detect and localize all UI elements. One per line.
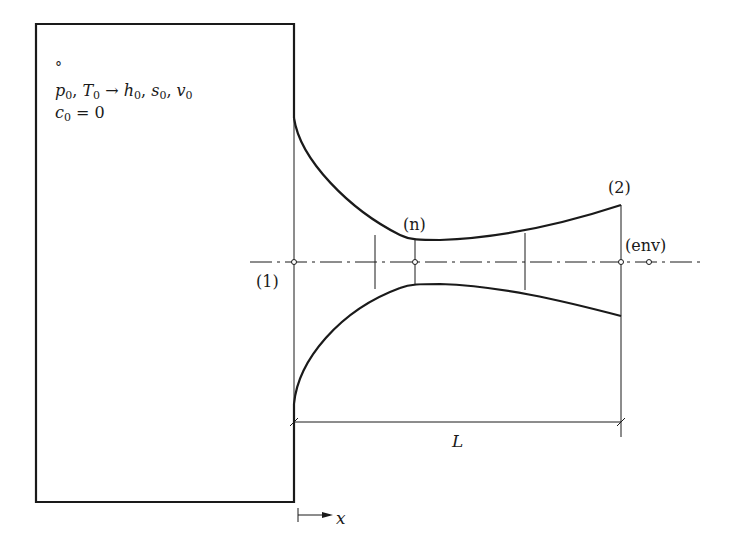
nozzle-lower-wall — [294, 284, 621, 404]
length-label: L — [451, 431, 463, 451]
nozzle-upper-wall — [294, 118, 621, 240]
tank-properties: p0, T0 → h0, s0, v0 — [55, 81, 193, 102]
env-point — [647, 260, 652, 265]
state-marker: ° — [55, 59, 62, 75]
throat-label: (n) — [403, 215, 426, 234]
throat-point — [413, 260, 418, 265]
nozzle-diagram: ° p0, T0 → h0, s0, v0 c0 = 0 (1) (n) (2)… — [0, 0, 729, 549]
env-label: (env) — [625, 236, 666, 255]
station-1-point — [292, 260, 297, 265]
station-2-label: (2) — [608, 178, 631, 197]
station-2-point — [619, 260, 624, 265]
x-axis-arrowhead — [322, 512, 333, 518]
x-axis-label: x — [336, 508, 346, 528]
tank-velocity: c0 = 0 — [55, 103, 105, 124]
station-1-label: (1) — [256, 272, 279, 291]
